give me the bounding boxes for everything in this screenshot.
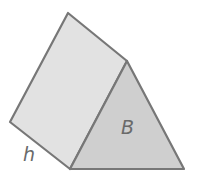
base-label: B bbox=[121, 116, 134, 138]
prism-svg: B h bbox=[0, 0, 197, 177]
triangular-prism-diagram: B h bbox=[0, 0, 197, 177]
height-label: h bbox=[23, 143, 35, 165]
